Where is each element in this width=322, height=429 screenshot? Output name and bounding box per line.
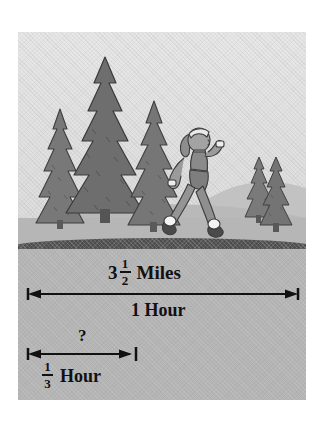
- walking-woman: [150, 114, 230, 246]
- partial-time-numerator: 1: [42, 360, 53, 373]
- pine-right-front: [258, 155, 294, 235]
- partial-time-denominator: 3: [42, 377, 53, 390]
- total-time-label: 1 Hour: [131, 301, 186, 319]
- distance-unit: Miles: [137, 263, 181, 282]
- scene-illustration: [18, 32, 306, 249]
- illustration-panel: 3 1 2 Miles 1 Hour: [18, 32, 306, 400]
- partial-time-unit: Hour: [60, 367, 101, 385]
- distance-whole-number: 3: [108, 263, 118, 282]
- distance-fraction: 1 2: [120, 257, 131, 287]
- partial-time-fraction: 1 3: [42, 360, 53, 390]
- partial-time-label: 1 3 Hour: [40, 361, 101, 391]
- distance-fraction-denominator: 2: [120, 274, 131, 287]
- arrow-full-span: [26, 287, 300, 301]
- unknown-label: ?: [78, 327, 87, 344]
- measurement-diagram: 3 1 2 Miles 1 Hour: [18, 249, 306, 400]
- arrow-partial-span: [26, 347, 140, 361]
- figure-root: 3 1 2 Miles 1 Hour: [0, 0, 322, 429]
- distance-label: 3 1 2 Miles: [108, 258, 181, 288]
- distance-fraction-numerator: 1: [120, 257, 131, 270]
